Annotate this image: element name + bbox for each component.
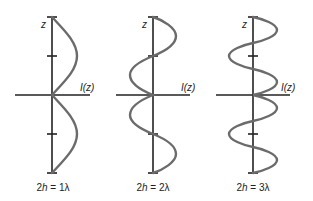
panel-2: z I(z) 2h = 2λ (116, 17, 195, 193)
caption: 2h = 1λ (36, 182, 69, 193)
current-axis-label: I(z) (281, 82, 295, 93)
current-axis-label: I(z) (80, 82, 94, 93)
z-axis-label: z (40, 19, 46, 30)
z-axis-label: z (141, 19, 147, 30)
current-axis-label: I(z) (181, 82, 195, 93)
dipole-current-diagram: z I(z) 2h = 1λ z I(z) 2h = 2λ z I(z) 2h … (0, 0, 313, 201)
panel-3: z I(z) 2h = 3λ (216, 17, 295, 193)
z-axis-label: z (241, 19, 247, 30)
caption: 2h = 3λ (236, 182, 269, 193)
caption: 2h = 2λ (136, 182, 169, 193)
panel-1: z I(z) 2h = 1λ (15, 17, 94, 193)
